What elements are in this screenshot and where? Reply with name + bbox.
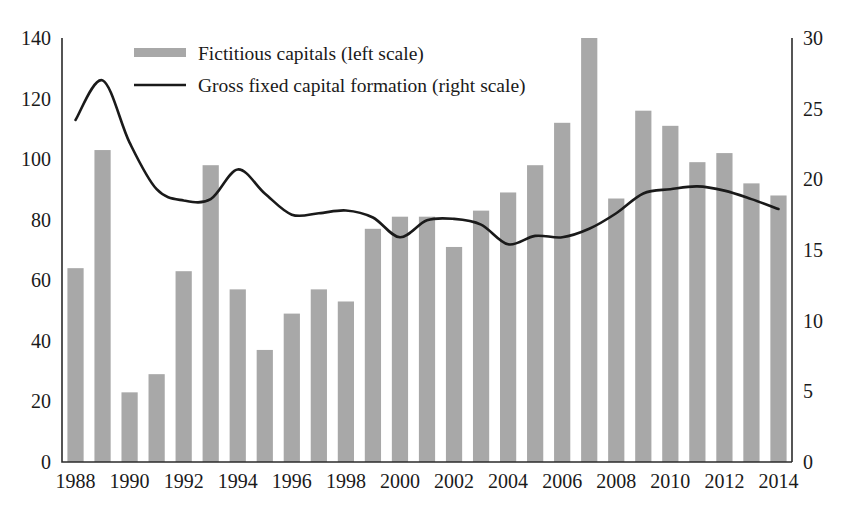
right-tick-label-15: 15	[803, 239, 823, 261]
right-tick-label-0: 0	[803, 451, 813, 473]
bar-1994	[230, 289, 246, 462]
bar-1996	[284, 314, 300, 462]
left-tick-label-40: 40	[31, 330, 51, 352]
x-tick-label-2010: 2010	[650, 470, 690, 492]
legend-swatch-icon-bars	[134, 48, 186, 57]
x-tick-label-2002: 2002	[434, 470, 474, 492]
legend-label-bars: Fictitious capitals (left scale)	[198, 43, 424, 65]
legend: Fictitious capitals (left scale)Gross fi…	[134, 43, 526, 97]
left-tick-label-100: 100	[21, 148, 51, 170]
bar-2007	[581, 38, 597, 462]
x-tick-label-1998: 1998	[326, 470, 366, 492]
x-axis-ticks: 1988199019921994199619982000200220042006…	[56, 470, 799, 492]
bar-2002	[446, 247, 462, 462]
bar-1991	[149, 374, 165, 462]
bar-2003	[473, 211, 489, 462]
x-tick-label-2006: 2006	[542, 470, 582, 492]
x-tick-label-1990: 1990	[110, 470, 150, 492]
bar-2008	[608, 199, 624, 462]
right-tick-label-5: 5	[803, 380, 813, 402]
right-tick-label-10: 10	[803, 310, 823, 332]
left-tick-label-80: 80	[31, 209, 51, 231]
bar-2004	[500, 192, 516, 462]
bar-2012	[716, 153, 732, 462]
x-tick-label-1996: 1996	[272, 470, 312, 492]
bar-1999	[365, 229, 381, 462]
bar-1990	[121, 392, 137, 462]
left-tick-label-0: 0	[41, 451, 51, 473]
x-tick-label-1988: 1988	[56, 470, 96, 492]
bar-2009	[635, 111, 651, 462]
bar-1989	[94, 150, 110, 462]
chart-canvas: 0204060801001201400510152025301988199019…	[0, 0, 858, 511]
x-tick-label-1992: 1992	[164, 470, 204, 492]
bar-2010	[662, 126, 678, 462]
bar-2014	[770, 195, 786, 462]
x-tick-label-2004: 2004	[488, 470, 528, 492]
bar-2006	[554, 123, 570, 462]
bar-2011	[689, 162, 705, 462]
bar-2001	[419, 217, 435, 462]
x-tick-label-1994: 1994	[218, 470, 258, 492]
bar-2000	[392, 217, 408, 462]
x-tick-label-2008: 2008	[596, 470, 636, 492]
bar-1992	[176, 271, 192, 462]
left-tick-label-20: 20	[31, 390, 51, 412]
bar-1997	[311, 289, 327, 462]
x-tick-label-2012: 2012	[704, 470, 744, 492]
left-tick-label-120: 120	[21, 88, 51, 110]
left-axis-ticks: 020406080100120140	[21, 27, 51, 473]
x-tick-label-2000: 2000	[380, 470, 420, 492]
bar-1998	[338, 301, 354, 462]
bar-1993	[203, 165, 219, 462]
legend-label-gfcf: Gross fixed capital formation (right sca…	[198, 75, 526, 97]
right-tick-label-30: 30	[803, 27, 823, 49]
chart-figure: 0204060801001201400510152025301988199019…	[0, 0, 858, 511]
right-axis-ticks: 051015202530	[803, 27, 823, 473]
bar-series	[67, 38, 786, 462]
bar-1995	[257, 350, 273, 462]
bar-2013	[743, 183, 759, 462]
right-tick-label-25: 25	[803, 98, 823, 120]
bar-2005	[527, 165, 543, 462]
x-tick-label-2014: 2014	[758, 470, 798, 492]
left-tick-label-140: 140	[21, 27, 51, 49]
left-tick-label-60: 60	[31, 269, 51, 291]
bar-1988	[67, 268, 83, 462]
right-tick-label-20: 20	[803, 168, 823, 190]
